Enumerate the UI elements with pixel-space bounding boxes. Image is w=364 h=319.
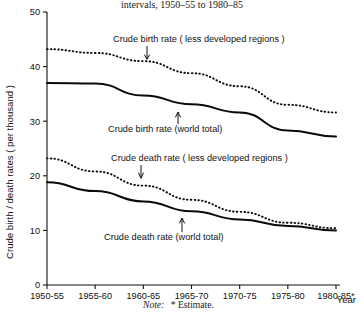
y-tick-label: 0 — [35, 280, 40, 290]
annotation-label: Crude birth rate (world total) — [108, 124, 222, 134]
series-line — [47, 182, 336, 230]
series-group — [47, 49, 336, 230]
annotation-label: Crude birth rate ( less developed region… — [113, 34, 285, 44]
annotation-label: Crude death rate ( less developed region… — [111, 153, 288, 163]
y-axis-label: Crude birth / death rates ( per thousand… — [4, 85, 15, 259]
x-tick-label: 1955-60 — [78, 291, 112, 301]
y-axis: 01020304050 Crude birth / death rates ( … — [4, 7, 47, 290]
note-prefix-word: Note: — [142, 299, 164, 310]
series-line — [47, 158, 336, 228]
chart-note: Note: * Estimate. — [142, 299, 214, 310]
annotation-death-world: Crude death rate (world total) — [104, 218, 224, 242]
y-tick-label: 40 — [30, 62, 40, 72]
y-tick-group: 01020304050 — [30, 7, 47, 290]
y-tick-label: 20 — [30, 171, 40, 181]
note-body: * Estimate. — [171, 299, 214, 310]
annotation-death-ldr: Crude death rate ( less developed region… — [111, 153, 288, 178]
y-tick-label: 10 — [30, 226, 40, 236]
chart-title: intervals, 1950–55 to 1980–85 — [121, 0, 243, 10]
series-line — [47, 49, 336, 112]
annotation-birth-ldr: Crude birth rate ( less developed region… — [113, 34, 285, 59]
x-tick-label: 1950-55 — [30, 291, 64, 301]
y-tick-label: 30 — [30, 117, 40, 127]
annotation-birth-world: Crude birth rate (world total) — [108, 112, 222, 134]
crude-birth-death-rate-chart: intervals, 1950–55 to 1980–85 0102030405… — [0, 0, 364, 319]
note-prefix: Note: * Estimate. — [142, 299, 214, 310]
y-tick-label: 50 — [30, 7, 40, 17]
x-tick-label: 1975-80 — [271, 291, 305, 301]
x-tick-label: 1970-75 — [223, 291, 257, 301]
x-axis-label: Year — [337, 294, 357, 305]
annotation-label: Crude death rate (world total) — [104, 232, 224, 242]
